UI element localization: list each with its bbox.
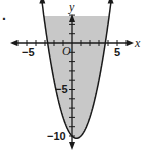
shaded-region <box>42 16 111 138</box>
y-tick-label-neg10: −10 <box>47 131 66 142</box>
y-axis-label: y <box>69 1 74 13</box>
x-axis-label: x <box>135 37 140 49</box>
x-tick-label-neg5: −5 <box>22 47 35 58</box>
axes <box>10 14 134 150</box>
origin-label: O <box>62 45 71 57</box>
x-tick-label-5: 5 <box>114 47 120 58</box>
problem-marker: . <box>2 8 6 22</box>
graph-plot <box>0 0 143 151</box>
y-tick-label-neg5: −5 <box>55 84 68 95</box>
